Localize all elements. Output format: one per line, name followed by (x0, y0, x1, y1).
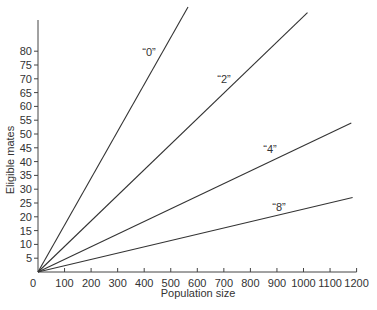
series-line (38, 123, 351, 272)
series-label: “2” (217, 73, 231, 85)
y-tick-label: 10 (20, 238, 32, 250)
y-tick-label: 30 (20, 183, 32, 195)
x-tick-label: 1100 (318, 277, 342, 289)
x-tick-label: 900 (268, 277, 286, 289)
y-tick-label: 5 (26, 252, 32, 264)
x-tick-label: 0 (30, 277, 36, 289)
series-line (38, 7, 188, 272)
series-label: “0” (142, 46, 156, 58)
y-axis-title: Eligible mates (4, 125, 16, 194)
y-tick-label: 20 (20, 211, 32, 223)
y-tick-label: 75 (20, 59, 32, 71)
series-lines (38, 7, 353, 272)
y-tick-label: 55 (20, 114, 32, 126)
x-axis-title: Population size (161, 287, 236, 299)
x-tick-label: 400 (135, 277, 153, 289)
y-tick-label: 35 (20, 169, 32, 181)
series-line (38, 197, 353, 272)
axes: 5101520253035404550556065707580010020030… (20, 20, 369, 289)
x-tick-label: 100 (55, 277, 73, 289)
y-tick-label: 70 (20, 73, 32, 85)
line-chart: 5101520253035404550556065707580010020030… (0, 0, 377, 310)
y-tick-label: 60 (20, 100, 32, 112)
y-tick-label: 25 (20, 197, 32, 209)
series-label: “8” (272, 201, 286, 213)
x-tick-label: 300 (108, 277, 126, 289)
y-tick-label: 45 (20, 142, 32, 154)
x-tick-label: 1200 (344, 277, 368, 289)
series-label: “4” (263, 143, 277, 155)
y-tick-label: 40 (20, 156, 32, 168)
y-tick-label: 15 (20, 225, 32, 237)
x-tick-label: 200 (82, 277, 100, 289)
x-tick-label: 800 (241, 277, 259, 289)
x-tick-label: 1000 (291, 277, 315, 289)
y-tick-label: 80 (20, 45, 32, 57)
y-tick-label: 50 (20, 128, 32, 140)
y-tick-label: 65 (20, 87, 32, 99)
